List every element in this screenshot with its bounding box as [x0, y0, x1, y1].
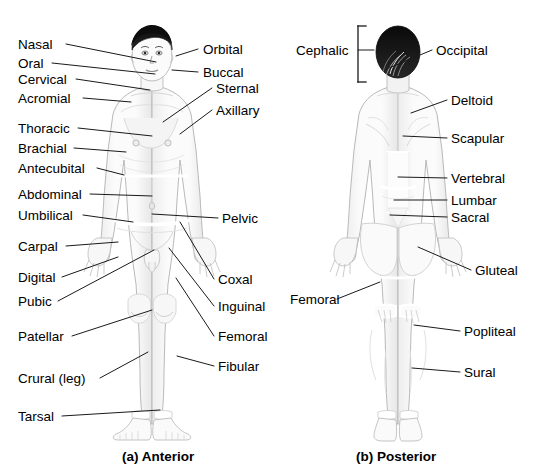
region-label-oral: Oral — [18, 57, 44, 71]
leader-line — [76, 79, 150, 90]
region-label-nasal: Nasal — [18, 38, 53, 52]
region-label-abdominal: Abdominal — [18, 188, 82, 202]
region-label-vertebral: Vertebral — [451, 172, 505, 186]
region-label-brachial: Brachial — [18, 142, 67, 156]
region-label-pelvic: Pelvic — [222, 212, 258, 226]
region-label-pubic: Pubic — [18, 295, 52, 309]
caption-posterior: (b) Posterior — [356, 449, 436, 464]
region-label-coxal: Coxal — [218, 273, 253, 287]
leader-line — [337, 282, 380, 299]
region-label-cephalic: Cephalic — [296, 44, 349, 58]
region-label-umbilical: Umbilical — [18, 209, 73, 223]
region-label-patellar: Patellar — [18, 330, 64, 344]
posterior-body — [330, 26, 466, 441]
figure-illustration — [0, 0, 557, 475]
region-label-fibular: Fibular — [218, 360, 259, 374]
region-label-digital: Digital — [18, 271, 56, 285]
region-label-lumbar: Lumbar — [451, 194, 497, 208]
region-label-cervical: Cervical — [18, 73, 67, 87]
region-label-thoracic: Thoracic — [18, 122, 70, 136]
anterior-body — [84, 25, 220, 440]
region-label-orbital: Orbital — [203, 43, 243, 57]
leader-line — [412, 368, 460, 372]
region-label-axillary: Axillary — [216, 104, 260, 118]
region-label-occipital: Occipital — [436, 44, 488, 58]
leader-line — [172, 70, 198, 72]
leader-line — [177, 356, 214, 366]
region-label-femoral: Femoral — [290, 293, 340, 307]
region-label-acromial: Acromial — [18, 92, 71, 106]
region-label-sural: Sural — [464, 366, 496, 380]
region-label-buccal: Buccal — [203, 66, 244, 80]
leader-line — [414, 325, 460, 331]
region-label-carpal: Carpal — [18, 240, 58, 254]
region-label-gluteal: Gluteal — [475, 264, 518, 278]
region-label-femoral: Femoral — [218, 330, 268, 344]
region-label-tarsal: Tarsal — [18, 410, 54, 424]
region-label-deltoid: Deltoid — [451, 94, 493, 108]
region-label-sacral: Sacral — [451, 211, 489, 225]
region-label-antecubital: Antecubital — [18, 162, 85, 176]
region-label-inguinal: Inguinal — [218, 300, 265, 314]
region-label-popliteal: Popliteal — [464, 325, 516, 339]
region-label-scapular: Scapular — [451, 132, 504, 146]
anatomical-regions-figure: NasalOralCervicalAcromialThoracicBrachia… — [0, 0, 557, 475]
region-label-sternal: Sternal — [216, 82, 259, 96]
leader-line — [176, 49, 198, 56]
cephalic-bracket — [358, 26, 366, 82]
caption-anterior: (a) Anterior — [122, 449, 194, 464]
leader-line — [176, 278, 214, 336]
region-label-crural-leg: Crural (leg) — [18, 372, 86, 386]
